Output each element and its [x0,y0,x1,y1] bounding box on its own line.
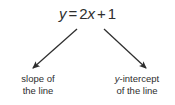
label-slope-line1: slope of [0,73,76,85]
label-y-intercept-of-the-line: y-intercept of the line [99,73,175,96]
label-intercept-suffix: -intercept [120,73,160,84]
label-slope-line2: the line [0,85,76,97]
label-intercept-line2: of the line [99,85,175,97]
arrow-to-slope [33,29,77,68]
label-slope-of-the-line: slope of the line [0,73,76,96]
arrow-to-y-intercept [104,29,146,68]
equation-annotation-diagram: y=2x+1 slope of the line y-intercept of … [0,0,175,105]
label-intercept-line1: y-intercept [99,73,175,85]
